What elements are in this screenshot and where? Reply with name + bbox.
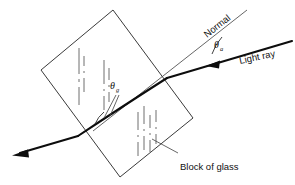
incidence-angle-symbol: θ <box>214 39 219 50</box>
incident-arrowhead-icon <box>206 61 220 69</box>
glass-hatch-group-lower <box>138 106 156 156</box>
exit-ray <box>20 136 78 153</box>
refraction-diagram: Normal Light ray Block of glass θ a θ g <box>0 0 295 185</box>
glass-hatch-group-upper <box>79 48 109 110</box>
normal-line <box>93 10 247 131</box>
block-of-glass-caption: Block of glass <box>180 161 239 172</box>
refracted-ray-in-glass <box>78 78 167 136</box>
normal-label: Normal <box>201 12 232 40</box>
exit-arrowhead-icon <box>12 150 29 158</box>
glass-block-outline <box>41 10 193 177</box>
incident-ray <box>167 41 292 78</box>
optics-refraction-figure: Normal Light ray Block of glass θ a θ g <box>0 0 295 185</box>
light-ray-label: Light ray <box>238 48 276 66</box>
incidence-angle-subscript: a <box>220 45 223 52</box>
refraction-angle-symbol: θ <box>110 80 115 91</box>
refraction-angle-subscript: g <box>116 86 120 93</box>
